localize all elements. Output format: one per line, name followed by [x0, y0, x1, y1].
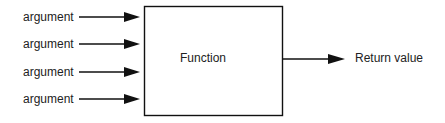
function-label: Function: [180, 51, 226, 65]
output-arrow: [283, 54, 345, 64]
input-arrow: [79, 67, 140, 77]
input-label: argument: [23, 92, 74, 106]
input-label: argument: [23, 37, 74, 51]
input-arrow: [79, 94, 140, 104]
input-label: argument: [23, 10, 74, 24]
input-arrow: [79, 39, 140, 49]
input-label: argument: [23, 65, 74, 79]
input-arrow: [79, 12, 140, 22]
return-value-label: Return value: [355, 51, 423, 65]
